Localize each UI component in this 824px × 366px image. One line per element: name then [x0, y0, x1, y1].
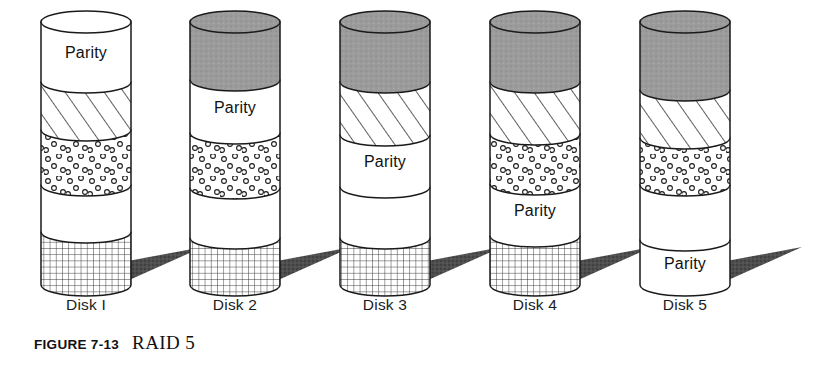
disk2-parity-text: Parity	[214, 99, 256, 116]
disk5-parity-text: Parity	[664, 255, 706, 272]
disk4-top-cap	[490, 11, 580, 33]
disk5-gray-band	[640, 22, 730, 101]
disk-diagram: ParityParityParityParityParity	[0, 0, 824, 300]
disk1-top-cap	[41, 11, 131, 33]
disk-label-3: Disk 3	[325, 296, 445, 314]
disk-cylinder-3: Parity	[340, 11, 502, 296]
disk3-parity-text: Parity	[364, 153, 406, 170]
disk4-parity-text: Parity	[514, 202, 556, 219]
disk-label-4: Disk 4	[475, 296, 595, 314]
disk-label-1: Disk I	[26, 296, 146, 314]
figure-caption: FIGURE 7-13 RAID 5	[34, 332, 195, 354]
figure-title: RAID 5	[132, 332, 195, 354]
disk-label-5: Disk 5	[625, 296, 745, 314]
disk-cylinder-5: Parity	[640, 11, 802, 296]
disk-label-2: Disk 2	[175, 296, 295, 314]
disk2-top-cap	[190, 11, 280, 33]
disk-cylinder-4: Parity	[490, 11, 652, 296]
figure-number: FIGURE 7-13	[34, 337, 119, 352]
disk-cylinder-1: Parity	[41, 11, 203, 296]
disk-cylinder-2: Parity	[190, 11, 352, 296]
disk5-top-cap	[640, 11, 730, 33]
disk3-top-cap	[340, 11, 430, 33]
raid5-figure: ParityParityParityParityParity Disk IDis…	[0, 0, 824, 366]
disk1-parity-text: Parity	[65, 44, 107, 61]
